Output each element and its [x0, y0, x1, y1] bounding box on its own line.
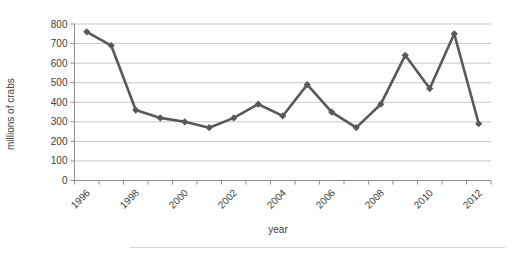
x-tick-label: 2006 — [314, 187, 338, 211]
chart-canvas: 0100200300400500600700800199619982000200… — [0, 0, 508, 261]
data-point — [206, 124, 213, 131]
data-point — [181, 118, 188, 125]
x-tick-label: 2002 — [216, 187, 240, 211]
x-tick-label: 1998 — [118, 187, 142, 211]
y-tick-label: 500 — [51, 77, 68, 88]
y-tick-label: 0 — [62, 175, 68, 186]
y-tick-label: 100 — [51, 155, 68, 166]
x-axis-title: year — [238, 224, 318, 235]
data-point — [157, 114, 164, 121]
y-tick-label: 800 — [51, 19, 68, 30]
y-axis-title: millions of crabs — [5, 78, 16, 150]
x-tick-label: 1996 — [69, 187, 93, 211]
x-tick-label: 2010 — [412, 187, 436, 211]
data-point — [132, 106, 139, 113]
x-tick-label: 2000 — [167, 187, 191, 211]
y-tick-label: 600 — [51, 58, 68, 69]
y-tick-label: 300 — [51, 116, 68, 127]
page: 0100200300400500600700800199619982000200… — [0, 0, 508, 261]
x-tick-label: 2012 — [461, 187, 485, 211]
x-tick-label: 2004 — [265, 187, 289, 211]
crab-population-chart: 0100200300400500600700800199619982000200… — [0, 0, 508, 261]
data-point — [475, 120, 482, 127]
y-tick-label: 400 — [51, 97, 68, 108]
bottom-divider — [130, 247, 505, 248]
y-tick-label: 200 — [51, 136, 68, 147]
y-tick-label: 700 — [51, 38, 68, 49]
x-tick-label: 2008 — [363, 187, 387, 211]
